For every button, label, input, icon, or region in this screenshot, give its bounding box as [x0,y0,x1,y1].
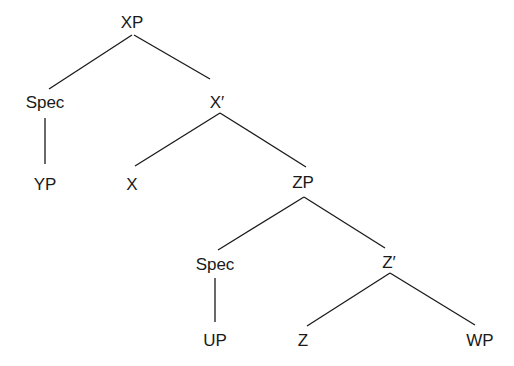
node-zp: ZP [292,174,314,191]
node-z-bar: Z′ [382,254,396,271]
node-up: UP [203,332,227,349]
edge-zp-zbar [304,197,385,248]
node-spec-z: Spec [196,256,235,273]
edge-xbar-zp [220,113,306,167]
edge-zbar-wp [390,273,475,325]
edge-xp-spec1 [49,35,132,89]
node-z: Z [298,332,308,349]
node-x-bar: X′ [210,94,225,111]
node-spec-x: Spec [26,94,65,111]
edge-zp-spec2 [218,197,304,250]
node-wp: WP [466,332,493,349]
node-xp: XP [121,14,144,31]
node-x: X [126,176,137,193]
tree-edges [0,0,514,366]
edge-xp-xbar [134,35,210,79]
edge-zbar-z [307,273,390,326]
node-yp: YP [34,176,57,193]
edge-xbar-x [135,113,220,166]
